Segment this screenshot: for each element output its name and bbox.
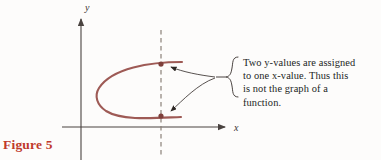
lower-callout-arrow: [171, 78, 215, 111]
callout-line-2: to one x-value. Thus this: [243, 69, 375, 82]
callout-brace: [226, 57, 238, 97]
upper-callout-arrow: [171, 67, 215, 77]
parabola-curve: [97, 62, 182, 118]
callout-line-1: Two y-values are assigned: [243, 56, 375, 69]
figure-container: y x Two y-values are assigned to one x-v…: [0, 0, 381, 160]
callout-line-3: is not the graph of a: [243, 82, 375, 95]
upper-intersection-point: [158, 61, 163, 66]
x-axis-label: x: [233, 122, 239, 133]
lower-intersection-point: [158, 113, 163, 118]
callout-line-4: function.: [243, 96, 375, 109]
callout-text-block: Two y-values are assigned to one x-value…: [243, 56, 375, 109]
figure-caption: Figure 5: [3, 137, 53, 153]
y-axis-label: y: [84, 2, 90, 13]
